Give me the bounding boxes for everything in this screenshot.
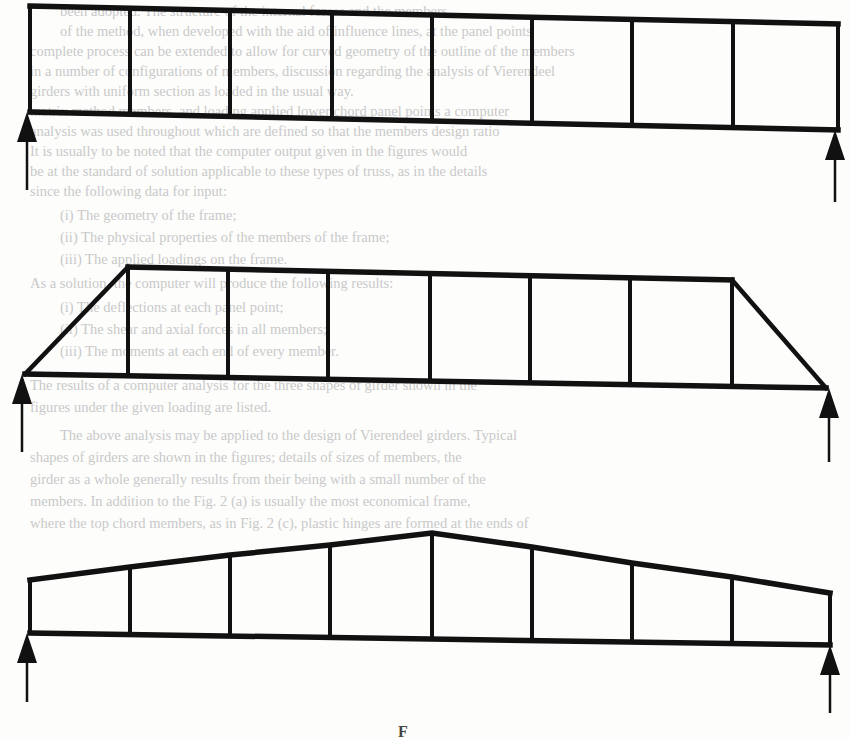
arrow-head — [819, 388, 839, 418]
truss-peaked-top — [17, 533, 840, 713]
scanned-page: been adopted. The structure of the inter… — [0, 0, 850, 738]
arrow-head — [12, 374, 32, 404]
support-reaction-arrow-icon — [825, 130, 845, 202]
support-reaction-arrow-icon — [820, 645, 840, 713]
support-reaction-arrow-icon — [17, 633, 37, 702]
vierendeel-truss-figure — [0, 0, 850, 738]
support-reaction-arrow-icon — [17, 112, 37, 190]
truss-parallel-chord — [17, 6, 845, 202]
bottom-chord — [25, 374, 826, 388]
support-reaction-arrow-icon — [819, 388, 839, 462]
arrow-head — [820, 645, 840, 675]
support-reaction-arrow-icon — [12, 374, 32, 452]
arrow-head — [17, 112, 37, 142]
figure-label: F — [398, 723, 416, 738]
truss-trapezoidal — [12, 267, 839, 462]
arrow-head — [17, 633, 37, 663]
end-diagonal-member — [25, 267, 128, 374]
arrow-head — [825, 130, 845, 160]
end-diagonal-member — [732, 280, 826, 388]
